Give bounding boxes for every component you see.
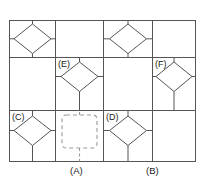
cell-r1c3-diamond — [104, 21, 153, 58]
diamond-shape — [110, 24, 147, 54]
diamond-shape — [14, 24, 51, 54]
cell-label-f: (F) — [155, 59, 167, 69]
grid-figure: (E) (F) (C) (D) (A) (B) — [0, 0, 208, 180]
dashed-square-shape — [62, 115, 97, 148]
cell-r3c2-dashed-square — [62, 111, 97, 162]
cell-label-d: (D) — [106, 112, 119, 122]
axis-label-b: (B) — [146, 165, 159, 176]
cell-label-e: (E) — [58, 59, 70, 69]
cell-r1c1-diamond — [10, 21, 56, 58]
grid-lines — [9, 20, 196, 162]
figure-canvas — [0, 0, 208, 180]
cell-label-c: (C) — [12, 112, 25, 122]
axis-label-a: (A) — [70, 165, 83, 176]
